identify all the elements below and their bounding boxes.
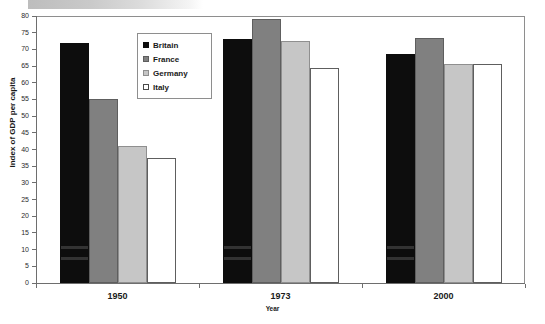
x-axis-category-label: 2000 [404,291,484,301]
bar-france-2000 [415,38,444,283]
legend-label: Britain [153,41,178,50]
y-axis-tick: 40 [0,145,36,155]
bar-france-1950 [89,99,118,283]
y-axis-tick-mark [32,132,36,133]
legend-swatch-britain-icon [143,42,149,48]
y-axis-tick: 25 [0,195,36,205]
y-axis-tick-label: 55 [21,94,29,104]
y-axis-tick: 45 [0,128,36,138]
bar-germany-2000 [444,64,473,283]
y-axis-tick: 0 [0,278,36,288]
y-axis-tick-label: 60 [21,78,29,88]
y-axis-tick-label: 75 [21,28,29,38]
y-axis-title: Index of GDP per capita [8,63,17,183]
legend-label: France [153,55,179,64]
y-axis-tick-label: 5 [25,261,29,271]
scan-band [387,257,414,260]
y-axis-tick: 20 [0,211,36,221]
legend-label: Germany [153,69,188,78]
y-axis-tick: 35 [0,161,36,171]
y-axis-tick-mark [32,99,36,100]
x-axis-category-label: 1950 [78,291,158,301]
x-axis-tick-mark [199,284,200,288]
bar-germany-1973 [281,41,310,283]
y-axis-tick-label: 0 [25,278,29,288]
legend-label: Italy [153,83,169,92]
y-axis-line [36,16,37,284]
bar-italy-1950 [147,158,176,283]
bar-chart-figure: 80757065605550454035302520151050 Index o… [0,0,545,324]
bar-britain-2000 [386,54,415,283]
y-axis-tick-label: 25 [21,195,29,205]
legend-item-france[interactable]: France [143,52,206,66]
y-axis-tick-label: 35 [21,161,29,171]
y-axis-tick-mark [32,116,36,117]
legend-swatch-germany-icon [143,70,149,76]
y-axis-tick-label: 80 [21,11,29,21]
chart-legend: BritainFranceGermanyItaly [137,33,212,99]
y-axis-tick-mark [32,266,36,267]
y-axis-tick: 80 [0,11,36,21]
bar-germany-1950 [118,146,147,283]
legend-item-britain[interactable]: Britain [143,38,206,52]
x-axis-tick-mark [36,284,37,288]
y-axis-tick-mark [32,16,36,17]
y-axis-tick: 70 [0,44,36,54]
scan-band [387,246,414,249]
scan-band [224,257,251,260]
y-axis-tick-label: 70 [21,44,29,54]
x-axis-tick-mark [525,284,526,288]
y-axis-tick-mark [32,216,36,217]
bar-italy-1973 [310,68,339,283]
y-axis-tick-mark [32,66,36,67]
bar-britain-1973 [223,39,252,283]
y-axis-tick-mark [32,82,36,83]
x-axis-line [36,283,525,284]
y-axis-tick-mark [32,149,36,150]
bar-britain-1950 [60,43,89,283]
y-axis-tick: 30 [0,178,36,188]
y-axis-tick-label: 45 [21,128,29,138]
y-axis-tick: 75 [0,28,36,38]
y-axis-tick: 15 [0,228,36,238]
y-axis-tick-label: 40 [21,145,29,155]
y-axis-tick-mark [32,199,36,200]
y-axis-tick-mark [32,182,36,183]
legend-item-germany[interactable]: Germany [143,66,206,80]
y-axis-tick-label: 30 [21,178,29,188]
y-axis-tick: 5 [0,261,36,271]
legend-swatch-italy-icon [143,84,149,90]
y-axis-tick-mark [32,32,36,33]
legend-swatch-france-icon [143,56,149,62]
y-axis-tick: 65 [0,61,36,71]
y-axis-tick-label: 20 [21,211,29,221]
y-axis-tick: 10 [0,245,36,255]
x-axis-title: Year [0,305,545,312]
y-axis-tick-mark [32,166,36,167]
y-axis-tick: 60 [0,78,36,88]
y-axis-tick: 55 [0,94,36,104]
bar-italy-2000 [473,64,502,283]
y-axis-tick-label: 10 [21,245,29,255]
y-axis-tick-label: 50 [21,111,29,121]
y-axis-tick-mark [32,249,36,250]
y-axis-tick-mark [32,232,36,233]
scan-band [61,246,88,249]
y-axis-tick: 50 [0,111,36,121]
legend-item-italy[interactable]: Italy [143,80,206,94]
y-axis-tick-label: 15 [21,228,29,238]
x-axis-tick-mark [362,284,363,288]
bar-france-1973 [252,19,281,283]
scan-band [224,246,251,249]
scan-band [61,257,88,260]
y-axis-tick-label: 65 [21,61,29,71]
x-axis-category-label: 1973 [241,291,321,301]
y-axis-tick-mark [32,49,36,50]
